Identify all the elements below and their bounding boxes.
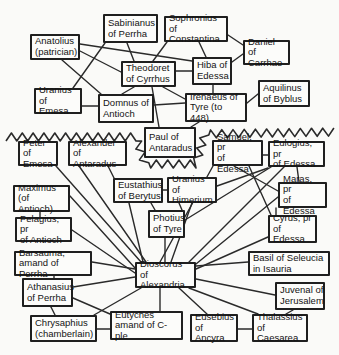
node-thalassius: Thalassius of Caesarea [252,314,308,342]
node-irenaeus: Irenaeus of Tyre (to 448) [185,93,247,122]
node-maras: Maras, pr of Edessa [278,182,327,208]
node-athanasius: Athanasius of Perrha [22,278,73,307]
node-hiba: Hiba of Edessa [192,57,232,85]
node-barsauma: Barsauma, amand of Perrha [14,251,92,276]
node-chrysaphius: Chrysaphius (chamberlain) [30,315,97,342]
node-juvenal: Juvenal of Jerusalem [275,282,325,310]
edge-sophronius--theodoret [153,42,167,61]
node-daniel: Daniel of Carrhae [243,40,290,65]
edge-athanasius--chrysaphius [51,307,55,315]
node-theodoret: Theodoret of Cyrrhus [121,61,176,87]
node-peter: Peter of Emesa [18,141,58,166]
node-alexander: Alexander of Antaradus [68,141,127,166]
edge-hiba--daniel [232,54,243,62]
node-sabinianus: Sabinianus of Perrha [103,14,158,43]
node-anatolius: Anatolius (patrician) [30,34,80,60]
node-basil: Basil of Seleucia in Isauria [248,251,330,276]
node-samuel: Samuel, pr of Edessa [212,140,263,166]
node-photius: Photius of Tyre [148,210,185,238]
edge-irenaeus--aquilinus [247,94,258,103]
node-pelagius: Pelagius, pr of Antioch [15,217,72,242]
edge-theodoret--domnus [122,87,134,94]
node-eulogius: Eulogius, pr of Edessa [268,141,325,167]
node-paul: Paul of Antaradus [144,127,196,158]
edge-basil--dioscorus [196,262,248,266]
node-cyrus: Cyrus, pr of Edessa [268,215,317,243]
node-maximus: Maximus (of Antioch) [13,185,70,212]
edge-theodoret--irenaeus [163,87,185,99]
edge-athanasius--eutyches [73,298,110,314]
node-uranius_himerium: Uranius of Himerium [167,177,217,203]
edge-eustathius--dioscorus [129,203,143,262]
node-aquilinus: Aquilinus of Byblus [258,80,310,107]
edge-sophronius--daniel [228,35,243,45]
node-eustathius: Eustathius of Berytus [113,178,163,203]
node-dioscorus: Dioscorus of Alexandria [135,262,196,288]
node-eusebius: Eusebius of Ancyra [190,314,238,342]
edge-eustathius--photius [151,203,155,210]
node-domnus: Domnus of Antioch [98,94,154,123]
edge-anatolius--hiba [80,44,192,61]
edge-barsauma--dioscorus [92,262,135,269]
node-uranius_emesa: Uranius of Emesa [34,88,82,114]
node-eutyches: Eutyches amand of C-ple [110,311,183,340]
edge-domnus--irenaeus [154,103,185,105]
edge-juvenal--dioscorus [196,279,275,295]
diagram-canvas: Anatolius (patrician)Sabinianus of Perrh… [0,0,339,355]
node-sophronius: Sophronius of Constantina [164,16,228,42]
